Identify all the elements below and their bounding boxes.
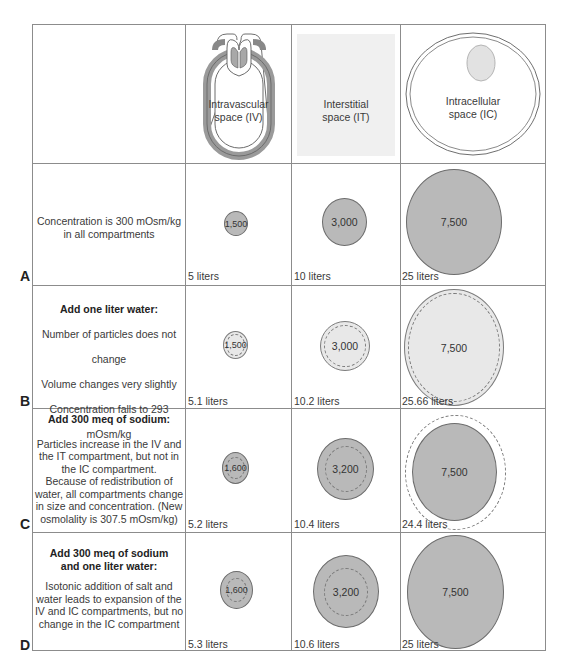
row-divider [33, 285, 545, 286]
ic-particles-a: 7,500 [406, 169, 502, 275]
header-it-label: Interstitial space (IT) [292, 98, 400, 124]
ic-particles-b: 7,500 [404, 289, 504, 406]
row-label-c: C [20, 516, 30, 532]
ic-particles-d: 7,500 [407, 535, 504, 649]
ic-volume-b: 25.66 liters [402, 395, 453, 407]
it-volume-b: 10.2 liters [294, 395, 340, 407]
blood-vessel-heart-icon [203, 30, 275, 160]
cell-with-nucleus-icon [403, 31, 543, 157]
row-label-d: D [20, 637, 30, 653]
header-ic-label: Intracellular space (IC) [400, 95, 546, 121]
row-label-a: A [20, 268, 30, 284]
iv-volume-a: 5 liters [188, 270, 219, 282]
ic-volume-c: 24.4 liters [402, 518, 448, 530]
interstitial-shaded-square [297, 34, 395, 156]
iv-particles-c: 1,600 [222, 452, 249, 484]
ic-particles-c: 7,500 [412, 423, 497, 521]
iv-volume-c: 5.2 liters [188, 518, 228, 530]
it-volume-c: 10.4 liters [294, 518, 340, 530]
it-particles-b: 3,000 [320, 321, 370, 371]
header-iv-label: Intravascular space (IV) [186, 98, 291, 124]
iv-volume-d: 5.3 liters [188, 638, 228, 650]
ic-volume-a: 25 liters [402, 270, 439, 282]
iv-volume-b: 5.1 liters [188, 395, 228, 407]
row-divider [33, 532, 545, 533]
it-particles-c: 3,200 [317, 438, 374, 500]
iv-particles-a: 1,500 [224, 211, 248, 236]
it-particles-a: 3,000 [322, 198, 367, 246]
row-label-b: B [20, 393, 30, 409]
row-c-description: Add 300 meq of sodium: Particles increas… [33, 413, 185, 525]
iv-particles-d: 1,600 [220, 571, 253, 609]
ic-volume-d: 25 liters [402, 638, 439, 650]
iv-particles-b: 1,500 [223, 331, 248, 359]
it-particles-d: 3,200 [313, 555, 379, 628]
it-volume-a: 10 liters [294, 270, 331, 282]
row-divider [33, 163, 545, 164]
it-volume-d: 10.6 liters [294, 638, 340, 650]
row-d-description: Add 300 meq of sodium and one liter wate… [33, 547, 185, 630]
row-a-description: Concentration is 300 mOsm/kg in all comp… [33, 215, 185, 240]
